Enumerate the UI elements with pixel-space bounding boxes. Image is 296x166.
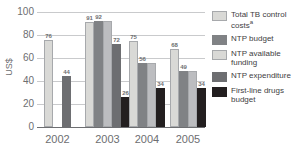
bar-value-label: 75 (130, 34, 137, 40)
legend-label: First-line drugs budget (231, 86, 296, 104)
bar-rect (156, 88, 165, 127)
bar[interactable]: 68 (170, 12, 179, 127)
legend-label: NTP available funding (231, 49, 296, 67)
bar-value-label: 92 (95, 14, 102, 20)
bar[interactable] (103, 12, 112, 127)
bar-value-label: 26 (122, 90, 129, 96)
plot-area: 764491927226755634684934 (37, 12, 205, 128)
bar-rect (147, 63, 156, 127)
legend-swatch (212, 72, 227, 82)
bar-rect (170, 49, 179, 127)
bar-rect (197, 88, 206, 127)
bar-rect (44, 40, 53, 127)
bar-rect (85, 22, 94, 127)
bar-value-label: 49 (180, 64, 187, 70)
x-axis-line (37, 127, 205, 128)
y-axis-title: US$ (4, 47, 14, 87)
bar-rect (188, 71, 197, 127)
bar[interactable]: 34 (197, 12, 206, 127)
bar[interactable] (147, 12, 156, 127)
bar-value-label: 34 (198, 81, 205, 87)
bar[interactable]: 75 (129, 12, 138, 127)
bar-rect (94, 21, 103, 127)
bar-value-label: 34 (157, 81, 164, 87)
legend-swatch (212, 50, 227, 60)
legend-item[interactable]: First-line drugs budget (212, 86, 296, 104)
legend-label: NTP expenditure (231, 71, 291, 80)
x-tick-label: 2004 (126, 133, 168, 145)
bar-rect (62, 76, 71, 127)
legend-label: NTP budget (231, 34, 274, 43)
y-tick-label: 100 (8, 7, 34, 17)
bar-spacer (53, 12, 62, 127)
bar-value-label: 44 (63, 69, 70, 75)
bar-rect (112, 44, 121, 127)
bar[interactable]: 91 (85, 12, 94, 127)
bars: 755634 (129, 12, 165, 127)
bar[interactable] (188, 12, 197, 127)
x-tick-label: 2003 (87, 133, 129, 145)
bar-value-label: 68 (171, 42, 178, 48)
bar-value-label: 72 (113, 37, 120, 43)
y-tick-label: 80 (8, 30, 34, 40)
legend-item[interactable]: NTP available funding (212, 49, 296, 67)
bar[interactable]: 44 (62, 12, 71, 127)
legend-item[interactable]: NTP expenditure (212, 71, 296, 82)
legend-label-superscript: a (250, 19, 253, 25)
bar-rect (138, 63, 147, 127)
bar[interactable]: 34 (156, 12, 165, 127)
bar[interactable]: 49 (179, 12, 188, 127)
bars: 91927226 (85, 12, 130, 127)
legend-item[interactable]: Total TB control costsa (212, 10, 296, 30)
x-tick-label: 2005 (167, 133, 209, 145)
bar-value-label: 56 (139, 56, 146, 62)
bar-value-label: 91 (86, 15, 93, 21)
legend-swatch (212, 35, 227, 45)
bar-value-label: 76 (45, 33, 52, 39)
y-tick-label: 0 (8, 122, 34, 132)
bar-chart: 100806040200 US$ 76449192722675563468493… (0, 0, 296, 166)
bar-rect (179, 71, 188, 127)
bar[interactable]: 76 (44, 12, 53, 127)
y-tick-label: 20 (8, 99, 34, 109)
legend-swatch (212, 11, 227, 21)
bar[interactable]: 72 (112, 12, 121, 127)
legend-label: Total TB control costsa (231, 10, 296, 30)
bar[interactable]: 56 (138, 12, 147, 127)
legend-item[interactable]: NTP budget (212, 34, 296, 45)
bar-rect (129, 41, 138, 127)
bar-rect (103, 21, 112, 127)
bars: 7644 (44, 12, 71, 127)
bar[interactable]: 92 (94, 12, 103, 127)
legend-swatch (212, 87, 227, 97)
chart-legend: Total TB control costsaNTP budgetNTP ava… (212, 10, 296, 108)
bars: 684934 (170, 12, 206, 127)
x-tick-label: 2002 (37, 133, 79, 145)
